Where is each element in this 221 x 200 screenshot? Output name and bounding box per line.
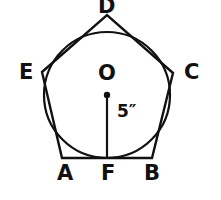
geometry-figure: D E C O 5″ A F B [0,0,221,200]
foot-label-f: F [101,163,115,184]
vertex-label-e: E [19,62,33,83]
vertex-label-b: B [144,163,160,184]
vertex-label-c: C [184,62,199,83]
center-point-dot [104,92,110,98]
radius-measure-label: 5″ [117,103,136,120]
vertex-label-d: D [98,0,115,17]
vertex-label-a: A [57,163,73,184]
center-label-o: O [98,63,116,84]
